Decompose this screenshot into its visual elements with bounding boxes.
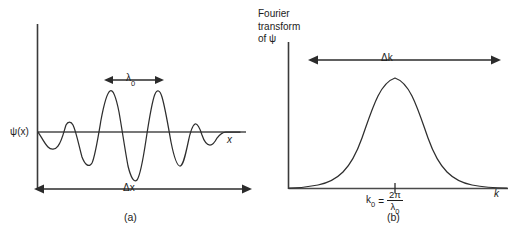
lambda-subscript: 0 [131, 79, 135, 88]
fourier-line-2: transform [258, 21, 300, 32]
panel-a-wavelength-label: λ0 [126, 72, 135, 88]
fourier-line-3: of ψ [258, 33, 276, 44]
panel-b-group [289, 42, 509, 193]
fourier-line-1: Fourier [258, 8, 290, 19]
figure-root: ψ(x) x λ0 Δx (a) Fouriertransformof ψ Δk… [0, 0, 515, 241]
panel-a-caption: (a) [124, 211, 137, 223]
wave-packet-curve [38, 91, 240, 181]
fraction-numerator: 2π [387, 190, 403, 200]
panel-b-width-label: Δk [381, 52, 393, 64]
panel-b-deltak-dimension [308, 56, 501, 65]
equals-sign: = [378, 196, 384, 208]
panel-a-group [34, 24, 252, 194]
panel-b-k-axis-label: k [494, 188, 499, 200]
panel-b-y-axis-label: Fouriertransformof ψ [258, 8, 300, 46]
gaussian-curve [289, 78, 507, 188]
k0-subscript: 0 [371, 200, 375, 209]
panel-a-x-axis-label: x [227, 134, 232, 146]
panel-b-caption: (b) [387, 211, 400, 223]
panel-a-width-label: Δx [123, 182, 135, 194]
panel-a-y-axis-label: ψ(x) [10, 126, 29, 138]
k0-symbol: k0 [366, 194, 375, 210]
panel-a-deltax-dimension [34, 185, 252, 194]
